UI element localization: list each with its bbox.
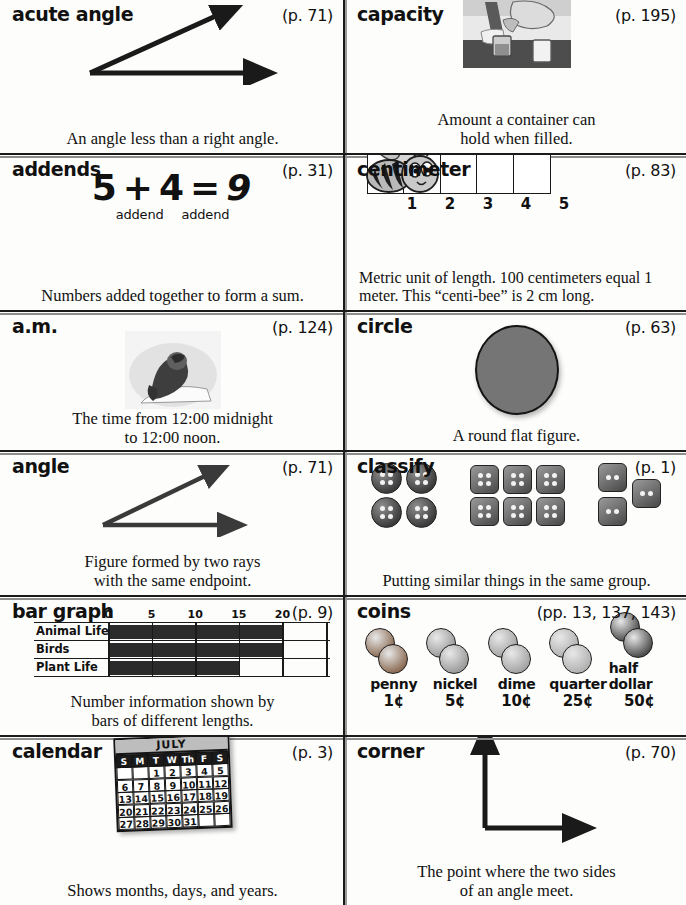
calendar-day-cell: 13: [116, 791, 133, 805]
button-hole: [519, 481, 524, 486]
button-hole: [388, 480, 393, 485]
calendar-day-cell: 23: [165, 802, 182, 816]
entry-header: circle (p. 63): [357, 317, 676, 337]
coin-name: quarter: [549, 676, 606, 692]
bar-graph-plot-area: Animal LifeBirdsPlant Life: [34, 622, 330, 676]
calendar-day-cell: 6: [116, 779, 133, 793]
entry-term: angle: [12, 457, 69, 477]
coin-images: [426, 628, 484, 676]
square-button-icon: [470, 497, 499, 526]
button-holes: [599, 498, 626, 525]
entry-header: addends (p. 31): [12, 160, 333, 180]
glossary-entry-addends: addends (p. 31) 5 + 4 = 9 addend: [0, 153, 343, 310]
calendar-day-cell: 17: [180, 789, 197, 803]
calendar-day-cell: 29: [149, 815, 166, 829]
coin-images: [365, 628, 423, 676]
gridline: [326, 623, 328, 676]
coin-name: dime: [498, 676, 536, 692]
coin-photos-row: penny1¢nickel5¢dime10¢quarter25¢half dol…: [357, 612, 676, 710]
entry-header: a.m. (p. 124): [12, 317, 333, 337]
calendar-day-cell: 14: [132, 791, 149, 805]
entry-term: addends: [12, 160, 101, 180]
button-hole: [606, 509, 611, 514]
ruler-mark: 3: [469, 195, 507, 213]
entry-definition: The point where the two sides of an angl…: [357, 862, 676, 901]
glossary-column-left: acute angle (p. 71) An angle less than a…: [0, 0, 343, 905]
entry-definition: Number information shown by bars of diff…: [12, 692, 333, 731]
calendar-day-cell: [213, 813, 230, 827]
button-holes: [407, 498, 436, 527]
entry-definition: A round flat figure.: [357, 426, 676, 446]
button-hole: [544, 505, 549, 510]
entry-term: classify: [357, 457, 434, 477]
button-hole: [552, 505, 557, 510]
bar-graph-row: Animal Life: [34, 623, 330, 641]
calendar-day-cell: 1: [147, 765, 164, 779]
glossary-page: acute angle (p. 71) An angle less than a…: [0, 0, 686, 905]
entry-page-ref: (p. 31): [282, 160, 333, 180]
button-hole: [478, 505, 483, 510]
gridline: [195, 623, 197, 676]
glossary-entry-acute-angle: acute angle (p. 71) An angle less than a…: [0, 0, 343, 153]
entry-page-ref: (p. 195): [615, 5, 676, 25]
ruler-mark: 2: [431, 195, 469, 213]
glossary-entry-am: a.m. (p. 124) The time from 12:00 midnig…: [0, 310, 343, 450]
calendar-day-cell: 26: [213, 800, 230, 814]
button-hole: [388, 506, 393, 511]
gray-circle-icon: [475, 325, 559, 415]
calendar-day-cell: 11: [196, 776, 213, 790]
button-hole: [486, 513, 491, 518]
gridline: [282, 623, 284, 676]
calendar-day-cell: 12: [212, 775, 229, 789]
entry-header: acute angle (p. 71): [12, 5, 333, 25]
calendar-day-cell: 3: [179, 764, 196, 778]
calendar-day-cell: 4: [195, 763, 212, 777]
bar-category-label: Plant Life: [36, 660, 98, 674]
entry-header: classify (p. 1): [357, 457, 676, 477]
button-hole: [486, 481, 491, 486]
entry-definition: Putting similar things in the same group…: [357, 571, 676, 591]
calendar-day-cell: 19: [212, 788, 229, 802]
calendar-day-cell: 10: [180, 777, 197, 791]
coin-item: quarter25¢: [547, 628, 608, 710]
bar-category-label: Birds: [36, 642, 69, 656]
button-holes: [633, 480, 660, 507]
entry-page-ref: (p. 70): [625, 742, 676, 762]
label-addend-a: addend: [116, 207, 164, 222]
coin-images: [549, 628, 607, 676]
button-hole: [511, 481, 516, 486]
calendar-day-cell: 21: [133, 803, 150, 817]
entry-term: centimeter: [357, 160, 470, 180]
bar: [108, 661, 239, 675]
button-hole: [486, 505, 491, 510]
button-hole: [640, 491, 645, 496]
button-hole: [544, 513, 549, 518]
coin-icon: [501, 644, 531, 674]
calendar-day-cell: 5: [211, 763, 228, 777]
gridline: [239, 623, 241, 676]
coin-images: [488, 628, 546, 676]
circle-shape-art: [357, 337, 676, 415]
button-hole: [380, 506, 385, 511]
button-hole: [380, 514, 385, 519]
calendar-day-cell: 30: [165, 815, 182, 829]
button-holes: [372, 498, 401, 527]
square-button-icon: [632, 479, 661, 508]
entry-term: a.m.: [12, 317, 57, 337]
button-hole: [415, 514, 420, 519]
calendar-day-cell: 7: [132, 778, 149, 792]
button-hole: [519, 505, 524, 510]
coin-name: penny: [370, 676, 417, 692]
glossary-entry-circle: circle (p. 63) A round flat figure.: [345, 310, 686, 450]
coin-value: 50¢: [624, 692, 654, 710]
coin-name: half dollar: [609, 660, 670, 692]
ruler-mark: 1: [393, 195, 431, 213]
entry-page-ref: (p. 3): [292, 742, 333, 762]
entry-header: coins (pp. 13, 137, 143): [357, 602, 676, 622]
glossary-entry-corner: corner (p. 70) The point where the two s…: [345, 735, 686, 905]
glossary-entry-calendar: calendar (p. 3) JULY SMTWThFS12345678910…: [0, 735, 343, 905]
button-hole: [519, 513, 524, 518]
entry-definition: Numbers added together to form a sum.: [12, 286, 333, 306]
coin-value: 25¢: [563, 692, 593, 710]
entry-page-ref: (p. 63): [625, 317, 676, 337]
